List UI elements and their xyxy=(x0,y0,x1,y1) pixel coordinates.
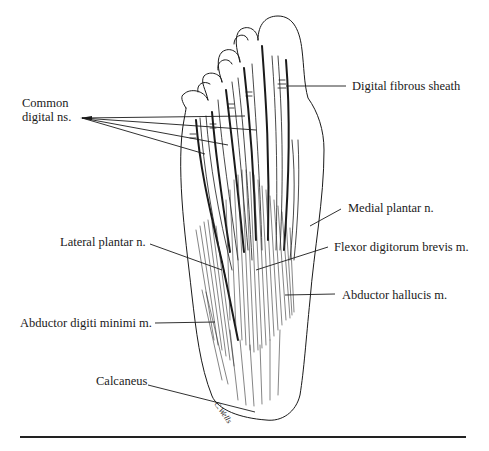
label-abductor-hallucis: Abductor hallucis m. xyxy=(342,288,447,302)
leader-lines xyxy=(80,86,346,412)
label-digital-fibrous-sheath: Digital fibrous sheath xyxy=(352,79,460,93)
anatomy-figure: C.Wells Common digital ns. Digital fibro… xyxy=(0,0,489,451)
label-abductor-digiti-minimi: Abductor digiti minimi m. xyxy=(20,316,152,330)
label-line-1: Common xyxy=(22,96,71,110)
foot-illustration: C.Wells xyxy=(0,0,489,451)
label-common-digital-nerves: Common digital ns. xyxy=(22,96,71,124)
label-line-2: digital ns. xyxy=(22,110,71,124)
bottom-rule xyxy=(20,436,466,438)
label-medial-plantar-nerve: Medial plantar n. xyxy=(348,201,434,215)
label-flexor-digitorum-brevis: Flexor digitorum brevis m. xyxy=(334,240,469,254)
label-calcaneus: Calcaneus xyxy=(96,374,147,388)
label-lateral-plantar-nerve: Lateral plantar n. xyxy=(60,235,146,249)
